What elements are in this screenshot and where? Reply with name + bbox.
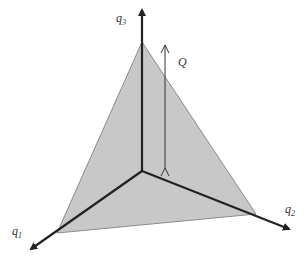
simplex-diagram: q3 q1 q2 Q	[0, 0, 306, 262]
q1-label: q1	[12, 224, 22, 240]
q3-label: q3	[116, 11, 126, 27]
q-arrow-label: Q	[178, 55, 187, 69]
q2-label: q2	[285, 202, 295, 218]
